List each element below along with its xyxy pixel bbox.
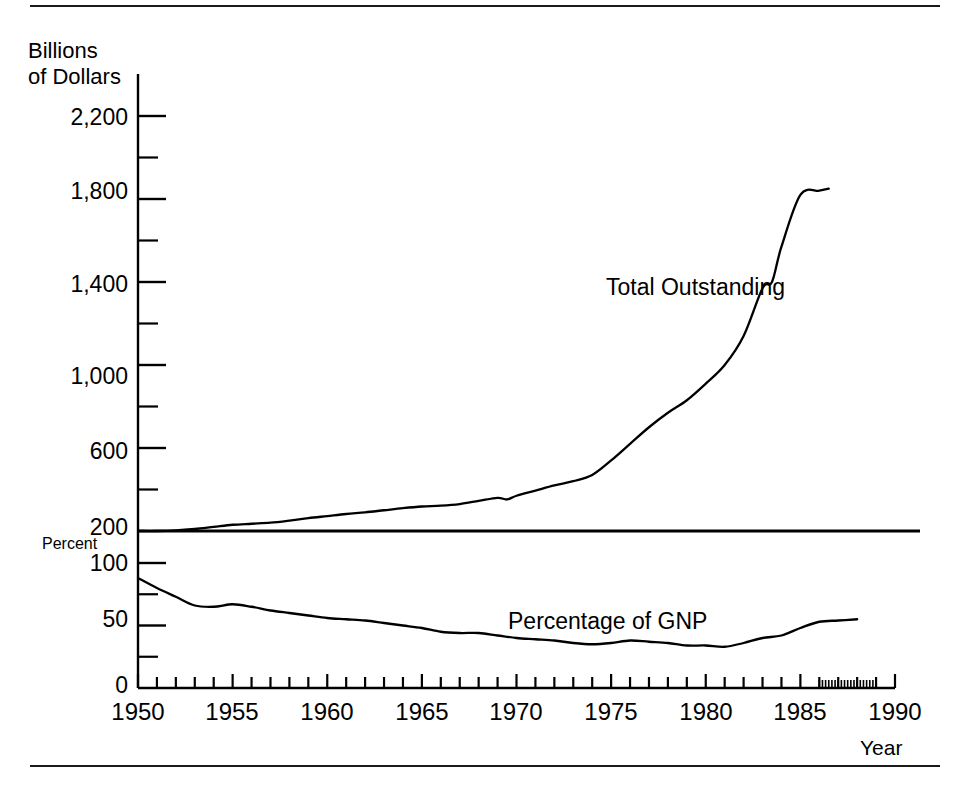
axes-group: [138, 74, 920, 688]
series-line-percentage-of-gnp: [138, 578, 857, 647]
series-line-total-outstanding: [138, 189, 829, 531]
chart-plot-area: [0, 0, 961, 786]
series-group: [138, 189, 857, 647]
chart-figure: Billions of Dollars Percent 2,200 1,800 …: [0, 0, 961, 786]
